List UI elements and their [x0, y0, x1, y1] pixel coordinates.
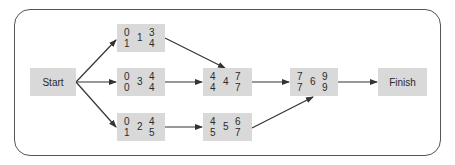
activity-node-3: 0 0 3 4 4 [117, 68, 165, 96]
early-finish: 7 [235, 72, 241, 82]
late-start: 7 [297, 83, 303, 93]
late-start: 5 [210, 128, 216, 138]
late-start: 1 [124, 39, 130, 49]
early-finish: 6 [235, 117, 241, 127]
edge-start-1 [76, 40, 116, 82]
activity-node-4: 4 4 4 7 7 [203, 68, 252, 96]
early-finish: 3 [149, 28, 155, 38]
activity-id: 5 [223, 122, 229, 132]
late-start: 4 [210, 83, 216, 93]
early-start: 4 [210, 117, 216, 127]
early-start: 7 [297, 72, 303, 82]
activity-id: 3 [137, 77, 143, 87]
early-start: 4 [210, 72, 216, 82]
finish-node: Finish [378, 68, 427, 96]
activity-node-6: 7 7 6 9 9 [290, 68, 338, 96]
activity-id: 1 [137, 33, 143, 43]
early-start: 0 [124, 117, 130, 127]
early-start: 0 [124, 72, 130, 82]
late-finish: 4 [149, 83, 155, 93]
edge-1-4 [165, 38, 225, 68]
early-finish: 9 [322, 72, 328, 82]
activity-id: 4 [223, 77, 229, 87]
activity-id: 6 [310, 77, 316, 87]
activity-node-2: 0 1 2 4 5 [117, 113, 165, 141]
finish-label: Finish [389, 77, 416, 88]
early-finish: 4 [149, 72, 155, 82]
late-finish: 5 [149, 128, 155, 138]
late-start: 1 [124, 128, 130, 138]
start-node: Start [30, 68, 76, 96]
activity-node-1: 0 1 1 3 4 [117, 24, 165, 52]
edge-start-2 [76, 82, 116, 127]
activity-id: 2 [137, 122, 143, 132]
late-finish: 9 [322, 83, 328, 93]
start-label: Start [42, 77, 63, 88]
late-start: 0 [124, 83, 130, 93]
activity-node-5: 4 5 5 6 7 [203, 113, 252, 141]
early-finish: 4 [149, 117, 155, 127]
late-finish: 7 [235, 83, 241, 93]
early-start: 0 [124, 28, 130, 38]
edge-5-6 [252, 97, 313, 128]
late-finish: 7 [235, 128, 241, 138]
late-finish: 4 [149, 39, 155, 49]
